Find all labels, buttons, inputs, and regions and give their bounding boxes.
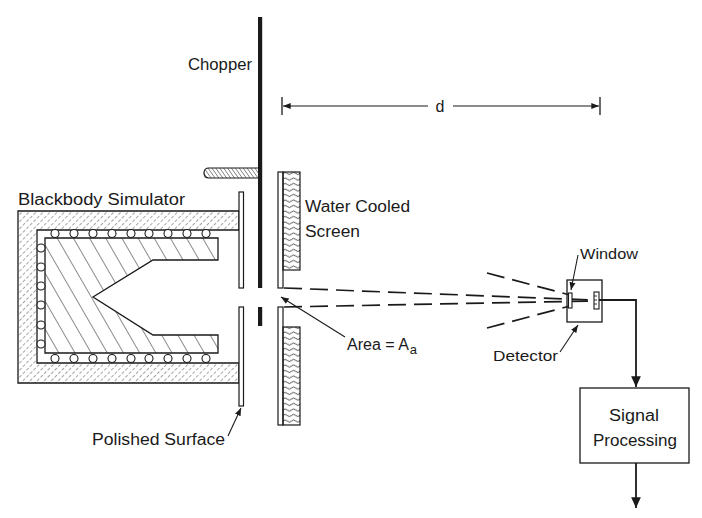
field-of-view-upper: [487, 273, 570, 295]
polished-surface-label: Polished Surface: [92, 431, 225, 448]
polished-surface: [239, 192, 244, 406]
polished-plate-lower: [239, 307, 244, 406]
chopper-blade-upper: [258, 17, 262, 288]
screen-plate-upper: [278, 172, 283, 288]
detector-output-wire: [599, 300, 636, 387]
chopper-label: Chopper: [188, 56, 253, 73]
aperture-area-subscript: a: [410, 342, 418, 357]
signal-processing-block: Signal Processing: [580, 388, 689, 463]
screen-coolant-upper: [283, 172, 300, 270]
detector-label: Detector: [493, 347, 558, 364]
water-cooled-label-line1: Water Cooled: [305, 198, 410, 215]
detector-window: [569, 293, 573, 308]
radiation-beam: [284, 273, 592, 328]
blackbody-detector-setup-diagram: Chopper d Blackbody Simulator Polished S…: [0, 0, 702, 518]
detector-leader: [560, 325, 578, 352]
beam-ray-upper: [284, 288, 592, 300]
signal-processing-label-line2: Processing: [593, 432, 677, 449]
screen-coolant-lower: [283, 327, 300, 425]
aperture-area-text: Area = A: [347, 336, 409, 353]
signal-processing-label-line1: Signal: [609, 407, 659, 424]
screen-plate-lower: [278, 307, 283, 425]
polished-plate-upper: [239, 192, 244, 288]
blackbody-simulator-label: Blackbody Simulator: [18, 191, 186, 208]
blackbody-simulator: [18, 211, 239, 383]
blackbody-cavity-core: [45, 238, 218, 353]
water-cooled-label-line2: Screen: [305, 223, 360, 240]
distance-label: d: [436, 98, 445, 115]
polished-surface-leader: [228, 408, 241, 436]
field-of-view-lower: [487, 306, 570, 328]
aperture-area-label: Area = Aa: [347, 336, 418, 357]
chopper-blade-lower: [258, 307, 262, 326]
window-leader: [571, 255, 578, 290]
signal-processing-box: [580, 388, 689, 463]
window-label: Window: [580, 245, 638, 262]
beam-ray-lower: [284, 301, 592, 307]
water-cooled-screen: [278, 172, 300, 425]
chopper-support-bar: [204, 168, 260, 178]
detector-element: [594, 292, 599, 309]
